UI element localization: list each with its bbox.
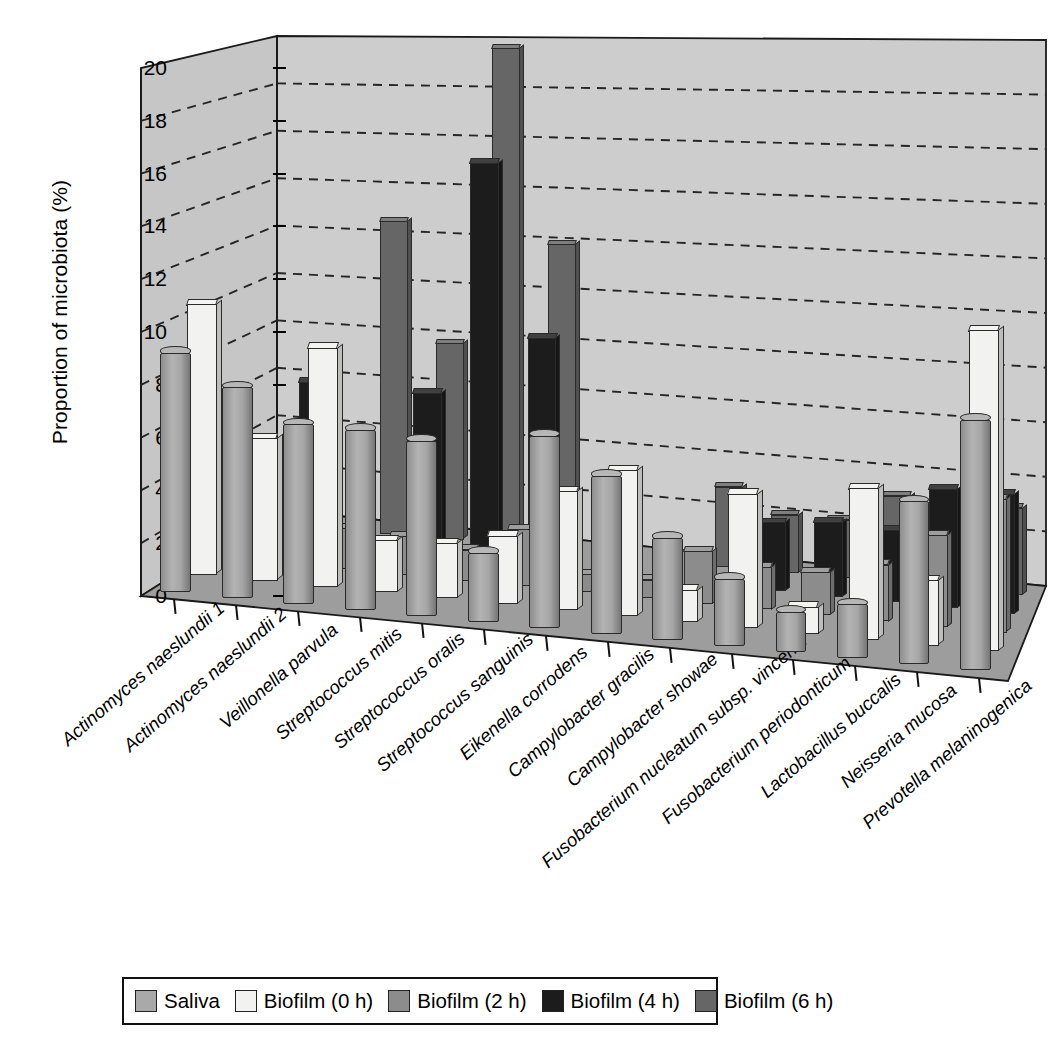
bar-front-face bbox=[345, 430, 376, 610]
y-tick-label: 16 bbox=[144, 162, 167, 186]
y-tick-mark bbox=[273, 331, 286, 333]
bar-front-face bbox=[714, 579, 745, 646]
legend-swatch-icon bbox=[235, 990, 257, 1012]
bar-saliva-13 bbox=[960, 420, 991, 671]
bar-biofilm-0-h--0 bbox=[187, 304, 217, 574]
y-tick-mark bbox=[273, 278, 286, 280]
y-tick-mark bbox=[273, 67, 286, 69]
bar-front-face bbox=[160, 353, 191, 592]
bar-front-face bbox=[529, 436, 560, 628]
bar-front-face bbox=[776, 612, 807, 653]
bar-front-face bbox=[470, 163, 499, 563]
bar-saliva-5 bbox=[468, 553, 499, 622]
y-tick-label: 18 bbox=[144, 109, 167, 133]
bar-front-face bbox=[222, 387, 253, 598]
bar-biofilm-4-h--4 bbox=[470, 163, 499, 563]
y-axis-ticks: 02468101214161820 bbox=[105, 0, 167, 640]
bar-saliva-0 bbox=[160, 353, 191, 592]
legend-item-biofilm-2-h-[interactable]: Biofilm (2 h) bbox=[388, 989, 526, 1013]
bar-front-face bbox=[899, 501, 930, 664]
y-tick-label: 10 bbox=[144, 320, 167, 344]
bar-saliva-6 bbox=[529, 436, 560, 628]
legend-swatch-icon bbox=[135, 990, 157, 1012]
y-tick-label: 14 bbox=[144, 214, 167, 238]
chart-legend: SalivaBiofilm (0 h)Biofilm (2 h)Biofilm … bbox=[122, 977, 718, 1025]
figure-3d-bar-chart: Proportion of microbiota (%) 02468101214… bbox=[0, 0, 1059, 1049]
y-tick-mark bbox=[273, 120, 286, 122]
y-tick-mark bbox=[273, 384, 286, 386]
bar-front-face bbox=[591, 476, 622, 634]
legend-item-biofilm-6-h-[interactable]: Biofilm (6 h) bbox=[695, 989, 833, 1013]
bar-front-face bbox=[187, 304, 217, 574]
bar-saliva-9 bbox=[714, 579, 745, 646]
bar-saliva-1 bbox=[222, 387, 253, 598]
bar-saliva-3 bbox=[345, 430, 376, 610]
bar-biofilm-6-h--2 bbox=[380, 221, 408, 534]
bar-saliva-4 bbox=[406, 441, 437, 616]
legend-label: Biofilm (0 h) bbox=[264, 989, 373, 1013]
bar-front-face bbox=[837, 604, 868, 658]
bar-front-face bbox=[380, 221, 408, 534]
legend-label: Saliva bbox=[164, 989, 220, 1013]
legend-swatch-icon bbox=[388, 990, 410, 1012]
y-tick-label: 20 bbox=[144, 56, 167, 80]
bar-front-face bbox=[283, 424, 314, 604]
y-tick-mark bbox=[273, 173, 286, 175]
legend-item-biofilm-4-h-[interactable]: Biofilm (4 h) bbox=[542, 989, 680, 1013]
y-tick-mark bbox=[273, 225, 286, 227]
legend-label: Biofilm (4 h) bbox=[571, 989, 680, 1013]
bar-front-face bbox=[468, 553, 499, 622]
legend-swatch-icon bbox=[695, 990, 717, 1012]
bar-front-face bbox=[652, 538, 683, 640]
bar-saliva-11 bbox=[837, 604, 868, 658]
bar-saliva-8 bbox=[652, 538, 683, 640]
bar-saliva-7 bbox=[591, 476, 622, 634]
bar-saliva-2 bbox=[283, 424, 314, 604]
legend-label: Biofilm (2 h) bbox=[417, 989, 526, 1013]
bar-front-face bbox=[960, 420, 991, 671]
y-tick-label: 12 bbox=[144, 267, 167, 291]
bar-saliva-12 bbox=[899, 501, 930, 664]
bar-front-face bbox=[406, 441, 437, 616]
legend-label: Biofilm (6 h) bbox=[724, 989, 833, 1013]
legend-swatch-icon bbox=[542, 990, 564, 1012]
legend-item-saliva[interactable]: Saliva bbox=[135, 989, 220, 1013]
legend-item-biofilm-0-h-[interactable]: Biofilm (0 h) bbox=[235, 989, 373, 1013]
bar-saliva-10 bbox=[776, 612, 807, 653]
